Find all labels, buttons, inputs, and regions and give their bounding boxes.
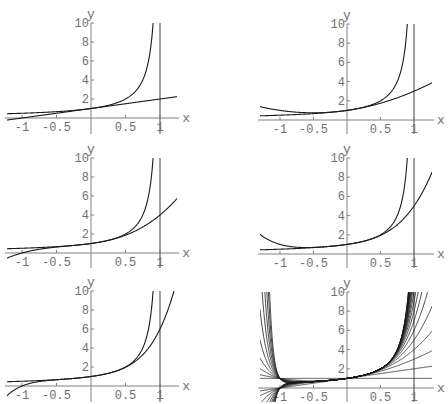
x-tick-label: -1 (15, 389, 29, 402)
y-axis-label: y (87, 275, 95, 290)
y-tick-label: 4 (82, 74, 89, 88)
x-axis-label: x (437, 381, 445, 396)
y-tick-label: 8 (338, 171, 345, 185)
x-axis-label: x (437, 247, 445, 262)
y-tick-label: 4 (338, 76, 345, 90)
x-tick-label: 0.5 (370, 123, 392, 134)
taylor-polynomial-curve (7, 97, 177, 120)
plot-svg: 246810-1-0.50.51yx (224, 0, 448, 134)
taylor-polynomial-curve (260, 172, 432, 247)
taylor-polynomial-curve (260, 351, 432, 381)
y-tick-label: 2 (338, 95, 345, 109)
x-tick-label: 1 (156, 389, 163, 402)
y-tick-label: 6 (338, 56, 345, 70)
plot-panel-row1-right: 246810-1-0.50.51yx (224, 0, 448, 134)
x-axis-label: x (182, 111, 190, 126)
x-axis-label: x (182, 379, 190, 394)
x-tick-label: 1 (410, 123, 417, 134)
y-tick-label: 6 (82, 323, 89, 337)
plot-svg: 246810-1-0.50.51yx (224, 134, 448, 268)
y-tick-label: 4 (82, 342, 89, 356)
y-tick-label: 8 (338, 305, 345, 319)
x-tick-label: 1 (156, 121, 163, 134)
plot-panel-row1-left: 246810-1-0.50.51yx (0, 0, 224, 134)
y-axis-label: y (87, 7, 95, 22)
y-tick-label: 2 (82, 93, 89, 107)
x-tick-label: 1 (156, 256, 163, 268)
plot-svg: 246810-1-0.50.51yx (0, 268, 224, 402)
y-tick-label: 2 (338, 229, 345, 243)
x-tick-label: -0.5 (299, 123, 328, 134)
y-tick-label: 6 (338, 190, 345, 204)
x-tick-label: -0.5 (42, 389, 71, 402)
taylor-polynomial-curve (260, 274, 432, 402)
x-tick-label: -0.5 (42, 121, 71, 134)
taylor-polynomial-curve (260, 83, 432, 113)
x-tick-label: 0.5 (115, 389, 137, 402)
x-axis-label: x (437, 113, 445, 128)
y-tick-label: 8 (82, 171, 89, 185)
x-tick-label: 0.5 (115, 121, 137, 134)
y-tick-label: 2 (338, 363, 345, 377)
y-tick-label: 2 (82, 361, 89, 375)
x-tick-label: -0.5 (42, 256, 71, 268)
function-curve (7, 153, 154, 249)
plot-svg: 246810-1-0.50.51yx (224, 268, 448, 402)
y-tick-label: 4 (338, 210, 345, 224)
x-tick-label: -1 (273, 123, 287, 134)
x-tick-label: -0.5 (299, 391, 328, 402)
plot-panel-row2-left: 246810-1-0.50.51yx (0, 134, 224, 268)
x-tick-label: -0.5 (299, 257, 328, 268)
y-tick-label: 6 (82, 55, 89, 69)
x-tick-label: 0.5 (370, 257, 392, 268)
function-curve (7, 18, 154, 114)
y-axis-label: y (343, 8, 351, 23)
plot-panel-row2-right: 246810-1-0.50.51yx (224, 134, 448, 268)
plot-svg: 246810-1-0.50.51yx (0, 134, 224, 268)
x-tick-label: 1 (410, 257, 417, 268)
y-axis-label: y (343, 142, 351, 157)
x-tick-label: -1 (15, 121, 29, 134)
function-curve (7, 286, 154, 382)
y-tick-label: 6 (82, 190, 89, 204)
plot-svg: 246810-1-0.50.51yx (0, 0, 224, 134)
y-tick-label: 6 (338, 324, 345, 338)
x-tick-label: 0.5 (370, 391, 392, 402)
x-tick-label: -1 (15, 256, 29, 268)
y-tick-label: 4 (82, 209, 89, 223)
y-axis-label: y (343, 276, 351, 291)
x-tick-label: -1 (273, 257, 287, 268)
plot-panel-row3-right: 246810-1-0.50.51yx (224, 268, 448, 402)
function-curve (260, 153, 408, 250)
y-tick-label: 8 (82, 304, 89, 318)
y-tick-label: 8 (338, 37, 345, 51)
y-tick-label: 2 (82, 228, 89, 242)
plot-panel-row3-left: 246810-1-0.50.51yx (0, 268, 224, 402)
x-axis-label: x (182, 246, 190, 261)
y-tick-label: 8 (82, 36, 89, 50)
x-tick-label: 1 (410, 391, 417, 402)
y-axis-label: y (87, 142, 95, 157)
y-tick-label: 4 (338, 344, 345, 358)
x-tick-label: 0.5 (115, 256, 137, 268)
taylor-polynomial-curve (7, 198, 177, 258)
taylor-polynomial-curve (7, 279, 177, 396)
